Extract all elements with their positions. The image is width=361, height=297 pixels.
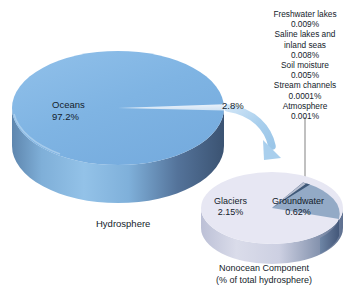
groundwater-name: Groundwater [272,196,324,207]
minor-stream-channels-value: 0.0001% [253,91,357,101]
hydrosphere-caption: Hydrosphere [96,218,150,229]
minor-freshwater-lakes-value: 0.009% [253,19,357,29]
nonocean-slice-value: 2.8% [222,100,244,111]
minor-soil-moisture-name: Soil moisture [253,60,357,70]
glaciers-slice-label: Glaciers 2.15% [214,196,247,218]
oceans-slice-label: Oceans 97.2% [52,99,85,122]
nonocean-pie [201,172,343,264]
groundwater-slice-label: Groundwater 0.62% [272,196,324,218]
minor-soil-moisture-value: 0.005% [253,70,357,80]
nonocean-caption: Nonocean Component (% of total hydrosphe… [216,263,312,286]
minor-atmosphere-name: Atmosphere [253,101,357,111]
oceans-name: Oceans [52,99,85,111]
minor-components-pointer-line [302,117,309,185]
minor-atmosphere-value: 0.001% [253,111,357,121]
minor-freshwater-lakes-name: Freshwater lakes [253,9,357,19]
minor-components-list: Freshwater lakes 0.009% Saline lakes and… [253,9,357,121]
hydrosphere-pie [12,51,224,203]
nonocean-caption-line1: Nonocean Component [216,263,312,275]
glaciers-value: 2.15% [214,207,247,218]
hydrosphere-pie-figure: Oceans 97.2% 2.8% Hydrosphere Glaciers 2… [0,0,361,297]
oceans-value: 97.2% [52,111,85,123]
nonocean-caption-line2: (% of total hydrosphere) [216,275,312,287]
minor-saline-lakes-name-1: Saline lakes and [253,29,357,39]
groundwater-value: 0.62% [272,207,324,218]
minor-stream-channels-name: Stream channels [253,80,357,90]
minor-saline-lakes-value: 0.008% [253,50,357,60]
glaciers-name: Glaciers [214,196,247,207]
minor-saline-lakes-name-2: inland seas [253,40,357,50]
